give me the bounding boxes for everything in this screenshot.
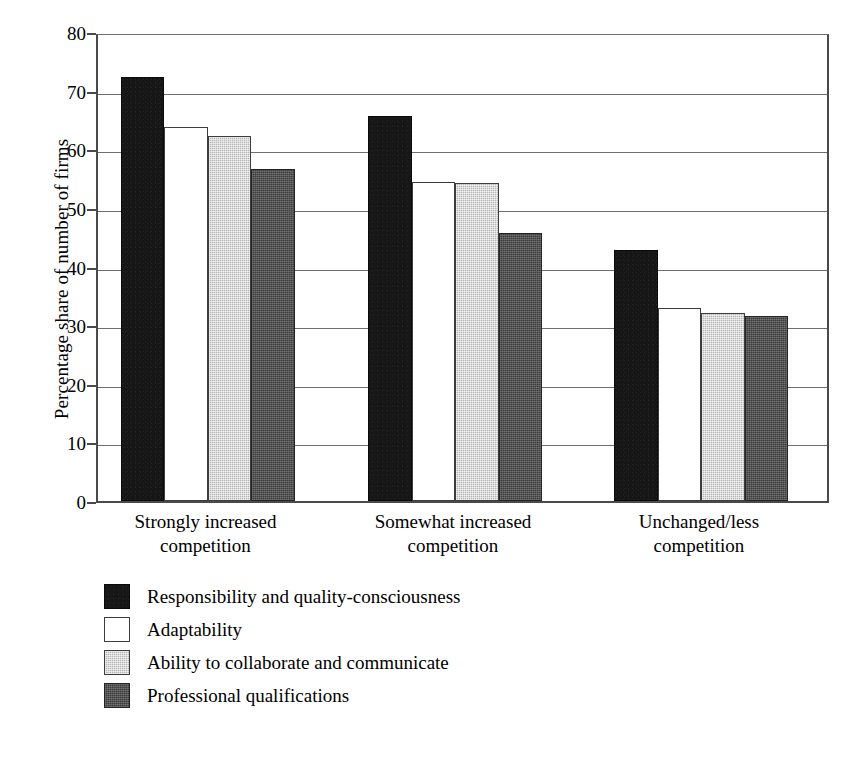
y-axis-tick-mark	[87, 150, 96, 152]
y-axis-tick-60: 60	[12, 141, 86, 160]
legend-label: Responsibility and quality-consciousness	[147, 587, 460, 606]
bar	[164, 127, 208, 501]
y-axis-tick-label: 70	[50, 83, 86, 102]
y-axis-tick-mark	[87, 209, 96, 211]
legend-swatch-icon	[104, 584, 130, 609]
y-axis-tick-50: 50	[12, 200, 86, 219]
y-axis-tick-10: 10	[12, 434, 86, 453]
bar	[658, 308, 702, 501]
plot-area	[96, 34, 829, 503]
legend-swatch-icon	[104, 683, 130, 708]
legend-item: Responsibility and quality-consciousness	[104, 580, 460, 613]
y-axis-title: Percentage share of number of firms	[51, 69, 73, 489]
y-axis-tick-40: 40	[12, 259, 86, 278]
x-axis-category-label-line: Somewhat increased	[323, 510, 583, 534]
bar	[208, 136, 252, 501]
y-axis-tick-label: 20	[50, 376, 86, 395]
bar	[455, 183, 499, 501]
bar	[121, 77, 165, 501]
x-axis-category-label-line: competition	[323, 534, 583, 558]
y-axis-tick-mark	[87, 326, 96, 328]
bar	[614, 250, 658, 501]
x-axis-category-label-line: competition	[569, 534, 829, 558]
y-axis-tick-label: 80	[50, 24, 86, 43]
legend-label: Adaptability	[147, 620, 242, 639]
x-axis-category-label-line: Unchanged/less	[569, 510, 829, 534]
y-axis-tick-70: 70	[12, 83, 86, 102]
y-axis-tick-label: 10	[50, 434, 86, 453]
x-axis-category-label: Somewhat increasedcompetition	[323, 510, 583, 558]
bar	[412, 182, 456, 502]
bar	[745, 316, 789, 501]
x-axis-category-label-line: Strongly increased	[76, 510, 336, 534]
x-axis-category-label: Unchanged/lesscompetition	[569, 510, 829, 558]
legend-swatch-icon	[104, 650, 130, 675]
legend-item: Ability to collaborate and communicate	[104, 646, 460, 679]
legend-item: Professional qualifications	[104, 679, 460, 712]
gridline	[98, 94, 827, 95]
bar	[701, 313, 745, 501]
legend-label: Ability to collaborate and communicate	[147, 653, 449, 672]
y-axis-tick-label: 60	[50, 141, 86, 160]
y-axis-tick-label: 40	[50, 259, 86, 278]
y-axis-tick-mark	[87, 385, 96, 387]
bar	[499, 233, 543, 502]
y-axis-tick-label: 50	[50, 200, 86, 219]
bar	[368, 116, 412, 501]
legend-label: Professional qualifications	[147, 686, 349, 705]
legend: Responsibility and quality-consciousness…	[104, 580, 460, 712]
y-axis-tick-mark	[87, 92, 96, 94]
legend-swatch-icon	[104, 617, 130, 642]
y-axis-tick-30: 30	[12, 317, 86, 336]
y-axis-tick-mark	[87, 268, 96, 270]
y-axis-tick-label: 30	[50, 317, 86, 336]
bar	[251, 169, 295, 501]
y-axis-tick-mark	[87, 443, 96, 445]
y-axis-tick-mark	[87, 502, 96, 504]
x-axis-category-label: Strongly increasedcompetition	[76, 510, 336, 558]
legend-item: Adaptability	[104, 613, 460, 646]
bar-chart: Percentage share of number of firms 0102…	[0, 0, 855, 763]
y-axis-tick-20: 20	[12, 376, 86, 395]
y-axis-tick-mark	[87, 33, 96, 35]
x-axis-category-label-line: competition	[76, 534, 336, 558]
y-axis-tick-80: 80	[12, 24, 86, 43]
